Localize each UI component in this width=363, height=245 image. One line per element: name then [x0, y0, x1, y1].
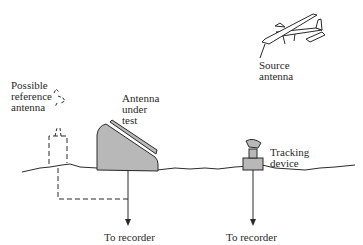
label-line: antenna — [11, 102, 52, 113]
recorder-label-left: To recorder — [104, 232, 155, 243]
source-aircraft — [260, 14, 325, 58]
recorder-label-right: To recorder — [226, 232, 277, 243]
label-line: test — [122, 115, 159, 126]
antenna-under-test-label: Antenna under test — [122, 93, 159, 126]
antenna-range-diagram: Possible reference antenna Antenna under… — [0, 0, 363, 245]
arrow-down-icon — [250, 219, 256, 226]
tracking-device — [243, 139, 263, 226]
antenna-under-test — [97, 120, 158, 171]
label-line: antenna — [259, 71, 293, 82]
tracking-dish-icon — [246, 139, 261, 148]
source-antenna-label: Source antenna — [259, 60, 293, 82]
tracking-device-label: Tracking device — [270, 147, 309, 169]
reference-antenna-dish-icon — [54, 89, 65, 107]
label-line: device — [270, 158, 309, 169]
diagram-canvas — [0, 0, 363, 245]
reference-antenna-label: Possible reference antenna — [11, 80, 52, 113]
arrow-down-icon — [125, 219, 131, 226]
